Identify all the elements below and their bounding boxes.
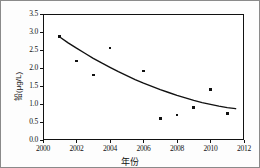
y-tick-label: 2.0 [11, 64, 38, 72]
x-tick-label: 2006 [130, 145, 158, 153]
x-tick-label: 2010 [197, 145, 225, 153]
data-point [75, 60, 78, 63]
x-tick-mark [244, 140, 245, 143]
y-tick-label: 0.5 [11, 118, 38, 126]
data-point [109, 47, 112, 50]
data-point [58, 35, 61, 38]
plot-area [43, 14, 244, 140]
x-tick-label: 2012 [230, 145, 258, 153]
y-tick-mark [40, 104, 43, 105]
data-point [142, 70, 145, 73]
data-point [192, 106, 195, 109]
y-tick-label: 0.0 [11, 136, 38, 144]
y-tick-mark [40, 68, 43, 69]
x-tick-label: 2000 [29, 145, 57, 153]
x-tick-mark [177, 140, 178, 143]
y-tick-mark [40, 86, 43, 87]
y-tick-label: 1.5 [11, 82, 38, 90]
x-tick-mark [210, 140, 211, 143]
chart-figure: 铅(μg/L) 年份 0.00.51.01.52.02.53.03.5 2000… [0, 0, 260, 168]
y-tick-mark [40, 14, 43, 15]
x-tick-label: 2004 [96, 145, 124, 153]
x-tick-mark [43, 140, 44, 143]
x-tick-label: 2008 [163, 145, 191, 153]
x-tick-label: 2002 [63, 145, 91, 153]
x-tick-mark [143, 140, 144, 143]
x-tick-mark [76, 140, 77, 143]
x-axis-title: 年份 [1, 155, 259, 168]
y-tick-mark [40, 122, 43, 123]
y-tick-label: 1.0 [11, 100, 38, 108]
data-point [159, 117, 162, 120]
data-point [209, 88, 212, 91]
y-tick-label: 2.5 [11, 46, 38, 54]
data-point [176, 114, 179, 117]
x-tick-mark [110, 140, 111, 143]
data-point [92, 74, 95, 77]
data-point [226, 112, 229, 115]
y-tick-label: 3.5 [11, 10, 38, 18]
y-tick-label: 3.0 [11, 28, 38, 36]
y-tick-mark [40, 50, 43, 51]
y-tick-mark [40, 32, 43, 33]
